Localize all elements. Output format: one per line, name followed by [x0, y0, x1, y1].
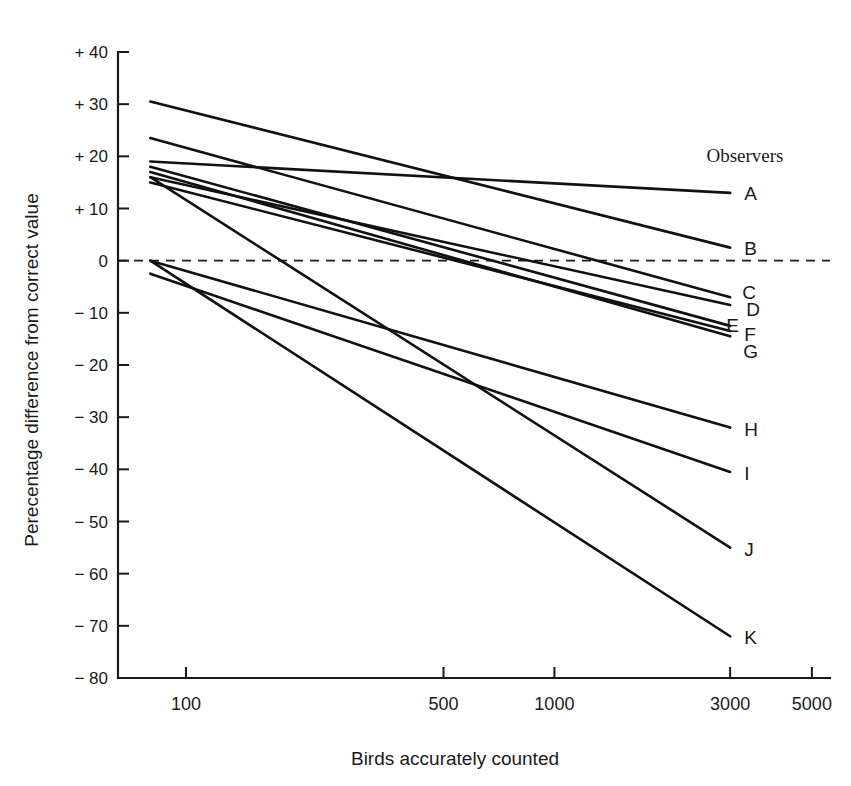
- series-label-d: D: [746, 299, 760, 320]
- y-tick-label: − 70: [74, 617, 108, 636]
- legend-title: Observers: [706, 145, 783, 166]
- x-tick-label: 5000: [792, 694, 832, 714]
- series-label-a: A: [744, 183, 757, 204]
- y-tick-label: − 40: [74, 460, 108, 479]
- x-tick-label: 3000: [710, 694, 750, 714]
- series-label-g: G: [743, 341, 758, 362]
- y-axis-title: Perecentage difference from correct valu…: [21, 193, 42, 546]
- y-tick-label: 0: [99, 252, 108, 271]
- series-label-b: B: [744, 238, 757, 259]
- series-label-i: I: [744, 463, 749, 484]
- series-label-k: K: [744, 627, 757, 648]
- y-tick-label: + 40: [74, 43, 108, 62]
- y-tick-label: + 10: [74, 200, 108, 219]
- series-label-j: J: [744, 539, 754, 560]
- chart-background: [0, 0, 851, 786]
- y-tick-label: − 30: [74, 408, 108, 427]
- series-label-e: E: [726, 315, 739, 336]
- y-tick-label: − 80: [74, 669, 108, 688]
- chart-figure: + 40+ 30+ 20+ 100− 10− 20− 30− 40− 50− 6…: [0, 0, 851, 786]
- y-tick-label: − 60: [74, 565, 108, 584]
- x-tick-label: 100: [171, 694, 201, 714]
- y-tick-label: − 20: [74, 356, 108, 375]
- x-tick-label: 500: [428, 694, 458, 714]
- x-axis-title: Birds accurately counted: [351, 748, 559, 769]
- series-label-h: H: [744, 419, 758, 440]
- y-tick-label: + 30: [74, 95, 108, 114]
- y-tick-label: − 50: [74, 513, 108, 532]
- y-tick-label: − 10: [74, 304, 108, 323]
- x-tick-label: 1000: [534, 694, 574, 714]
- y-tick-label: + 20: [74, 147, 108, 166]
